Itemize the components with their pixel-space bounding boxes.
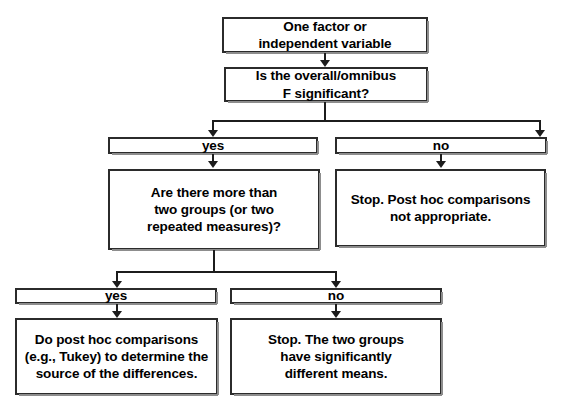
flowchart-diagram: One factor or independent variable Is th… xyxy=(0,0,561,413)
node-yes-1-label: yes xyxy=(198,137,228,154)
node-groups-question: Are there more than two groups (or two r… xyxy=(108,169,320,250)
connector-groups-split xyxy=(116,271,337,273)
node-start-label: One factor or independent variable xyxy=(254,18,395,53)
node-groups-question-label: Are there more than two groups (or two r… xyxy=(143,184,285,236)
arrow-no1-to-stop-icon xyxy=(436,161,446,168)
node-do-post-hoc-label: Do post hoc comparisons (e.g., Tukey) to… xyxy=(21,331,213,383)
node-stop-not-appropriate: Stop. Post hoc comparisons not appropria… xyxy=(335,169,546,247)
node-do-post-hoc: Do post hoc comparisons (e.g., Tukey) to… xyxy=(15,318,218,395)
node-stop-not-appropriate-label: Stop. Post hoc comparisons not appropria… xyxy=(347,191,535,226)
node-omnibus-question-label: Is the overall/omnibus F significant? xyxy=(252,67,400,102)
arrow-no2-to-stop2-icon xyxy=(331,311,341,318)
arrow-omnibus-to-no-icon xyxy=(535,130,545,137)
node-no-2-label: no xyxy=(324,287,348,304)
node-no-1: no xyxy=(335,137,547,154)
node-no-2: no xyxy=(230,288,442,304)
node-omnibus-question: Is the overall/omnibus F significant? xyxy=(224,67,428,102)
node-yes-2: yes xyxy=(15,288,217,304)
node-yes-1: yes xyxy=(108,137,318,154)
connector-omnibus-split xyxy=(212,120,541,122)
arrow-yes1-to-groups-icon xyxy=(208,161,218,168)
node-stop-two-groups: Stop. The two groups have significantly … xyxy=(230,318,442,395)
node-start: One factor or independent variable xyxy=(222,17,428,53)
node-no-1-label: no xyxy=(429,137,453,154)
node-yes-2-label: yes xyxy=(101,287,131,304)
connector-groups-stem xyxy=(213,250,215,272)
arrow-start-to-omnibus-icon xyxy=(320,60,330,67)
node-stop-two-groups-label: Stop. The two groups have significantly … xyxy=(264,331,408,383)
arrow-yes2-to-posthoc-icon xyxy=(112,311,122,318)
connector-omnibus-stem xyxy=(324,102,326,121)
